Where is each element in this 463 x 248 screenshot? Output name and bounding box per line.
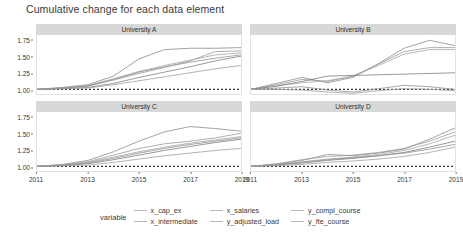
legend-item-label: x_salaries <box>227 206 259 215</box>
y-axis-tick-label: 1.75 <box>17 113 30 120</box>
y-axis-tick-label: 1.00 <box>17 164 30 171</box>
series-line-x_cap_ex <box>37 48 241 90</box>
facet-strip-label: University C <box>36 101 242 112</box>
series-line-x_cap_ex <box>37 127 241 167</box>
legend-item-label: y_adjusted_load <box>227 217 279 226</box>
facet-strip-label: University D <box>250 101 456 112</box>
facet-panel-grid: University AUniversity BUniversity CUniv… <box>36 24 456 172</box>
x-axis-tick-label: 2011 <box>29 176 43 183</box>
x-axis-tick-label: 2013 <box>80 176 95 183</box>
series-line-x_intermediate <box>37 51 241 89</box>
y-axis-tick-label: 1.50 <box>17 53 30 60</box>
facet-panel-university-c: University C <box>36 101 242 172</box>
legend-swatch-icon <box>134 221 147 223</box>
y-axis-top-row: 1.001.251.501.75 <box>0 35 34 95</box>
facet-panel-university-a: University A <box>36 24 242 95</box>
legend-item-x_salaries[interactable]: x_salaries <box>210 206 279 215</box>
facet-panel-university-d: University D <box>250 101 456 172</box>
y-axis-tick-label: 1.00 <box>17 87 30 94</box>
series-line-y_adjusted_load <box>37 56 241 89</box>
plot-area <box>250 112 456 172</box>
plot-area <box>36 112 242 172</box>
series-line-y_compl_course <box>37 55 241 89</box>
y-axis-bottom-row: 1.001.251.501.75 <box>0 112 34 172</box>
series-line-x_intermediate <box>37 133 241 166</box>
series-line-x_cap_ex <box>251 128 455 166</box>
legend-swatch-icon <box>210 221 223 223</box>
legend-swatch-icon <box>291 221 304 223</box>
x-axis-tick-label: 2013 <box>294 176 309 183</box>
legend-item-x_cap_ex[interactable]: x_cap_ex <box>134 206 198 215</box>
legend-item-label: y_fte_course <box>308 217 349 226</box>
legend-item-label: x_cap_ex <box>151 206 182 215</box>
x-axis-tick-label: 2015 <box>132 176 147 183</box>
legend-swatch-icon <box>291 210 304 212</box>
legend-item-x_intermediate[interactable]: x_intermediate <box>134 217 198 226</box>
facet-strip-label: University B <box>250 24 456 35</box>
series-line-x_cap_ex <box>251 40 455 89</box>
page-title: Cumulative change for each data element <box>26 3 224 15</box>
x-axis-tick-label: 2019 <box>449 176 463 183</box>
series-line-x_salaries <box>251 135 455 166</box>
facet-panel-university-b: University B <box>250 24 456 95</box>
y-axis-tick-label: 1.25 <box>17 70 30 77</box>
x-axis-tick-label: 2011 <box>243 176 257 183</box>
y-axis-tick-label: 1.50 <box>17 130 30 137</box>
legend-item-y_compl_course[interactable]: y_compl_course <box>291 206 360 215</box>
legend-swatch-icon <box>210 210 223 212</box>
y-axis-tick-label: 1.25 <box>17 147 30 154</box>
legend-item-y_fte_course[interactable]: y_fte_course <box>291 217 360 226</box>
legend-item-label: y_compl_course <box>308 206 360 215</box>
series-line-y_compl_course <box>251 85 455 92</box>
x-axis-tick-label: 2017 <box>397 176 412 183</box>
legend-item-label: x_intermediate <box>151 217 198 226</box>
facet-strip-label: University A <box>36 24 242 35</box>
x-axis-right-column: 20112013201520172019 <box>250 173 456 187</box>
x-axis-left-column: 20112013201520172019 <box>36 173 242 187</box>
series-line-y_adjusted_load <box>251 73 455 90</box>
x-axis-tick-label: 2017 <box>183 176 198 183</box>
series-line-x_intermediate <box>251 48 455 90</box>
legend-item-y_adjusted_load[interactable]: y_adjusted_load <box>210 217 279 226</box>
y-axis-tick-label: 1.75 <box>17 36 30 43</box>
legend-swatch-icon <box>134 210 147 212</box>
legend-title: variable <box>100 206 127 222</box>
plot-area <box>250 35 456 95</box>
legend-entries: x_cap_exx_salariesy_compl_coursex_interm… <box>134 206 361 226</box>
x-axis-tick-label: 2015 <box>346 176 361 183</box>
legend: variable x_cap_exx_salariesy_compl_cours… <box>100 206 360 226</box>
plot-area <box>36 35 242 95</box>
series-line-x_salaries <box>37 53 241 89</box>
